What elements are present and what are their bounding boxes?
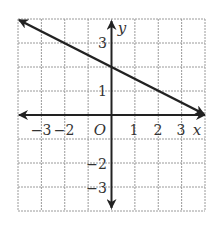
y-axis-label: y — [117, 19, 127, 37]
x-tick-label: 3 — [177, 122, 186, 138]
coordinate-graph: −3 −2 1 2 3 x O 3 1 −2 −3 y — [0, 0, 216, 230]
axes — [19, 21, 205, 208]
x-tick-label: 2 — [154, 122, 163, 138]
y-tick-label: −2 — [86, 156, 107, 172]
x-tick-label: 1 — [130, 122, 139, 138]
x-tick-label: −2 — [54, 122, 75, 138]
y-tick-label: 1 — [98, 83, 107, 99]
x-tick-label: −3 — [31, 122, 52, 138]
origin-label: O — [94, 121, 106, 139]
tick-labels: −3 −2 1 2 3 x O 3 1 −2 −3 y — [31, 19, 202, 196]
y-tick-label: 3 — [98, 35, 107, 51]
x-axis-label: x — [193, 121, 202, 139]
y-tick-label: −3 — [86, 180, 107, 196]
